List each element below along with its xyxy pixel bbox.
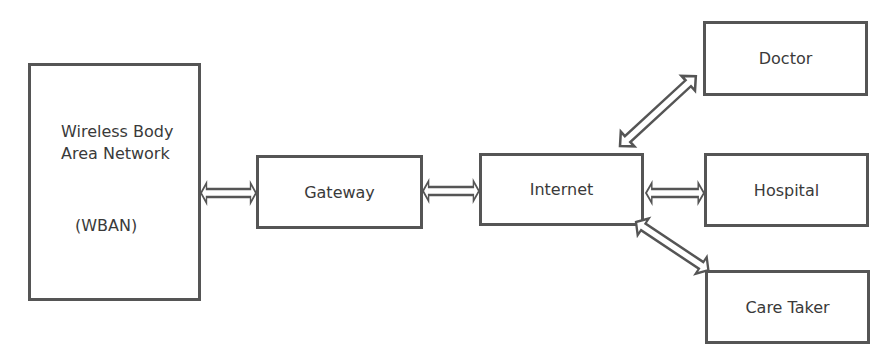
arrow-gateway-internet-icon [423, 181, 479, 201]
arrow-internet-hospital-icon [646, 183, 704, 203]
arrow-internet-doctor-icon [613, 69, 702, 153]
connectors [0, 0, 896, 363]
arrow-internet-caretaker-icon [630, 214, 713, 279]
arrow-wban-gateway-icon [201, 183, 256, 203]
